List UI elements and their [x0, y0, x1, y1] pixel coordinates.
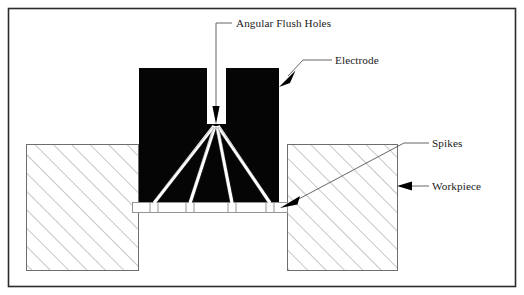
- spikes-label: Spikes: [432, 137, 462, 149]
- angular-flush-holes-label: Angular Flush Holes: [236, 17, 331, 29]
- workpiece-left-hatch-fill: [26, 144, 139, 271]
- edm-cross-section-figure: Angular Flush Holes Electrode Spikes Wor…: [0, 0, 524, 295]
- electrode-upper-left: [139, 68, 207, 128]
- electrode-upper-right: [226, 68, 279, 128]
- workpiece-left-block: [26, 144, 139, 271]
- diagram-canvas: Angular Flush Holes Electrode Spikes Wor…: [0, 0, 524, 295]
- workpiece-right-block: [287, 144, 398, 271]
- electrode-label: Electrode: [335, 54, 379, 66]
- workpiece-label: Workpiece: [432, 180, 481, 192]
- workpiece-right-hatch-fill: [287, 144, 398, 271]
